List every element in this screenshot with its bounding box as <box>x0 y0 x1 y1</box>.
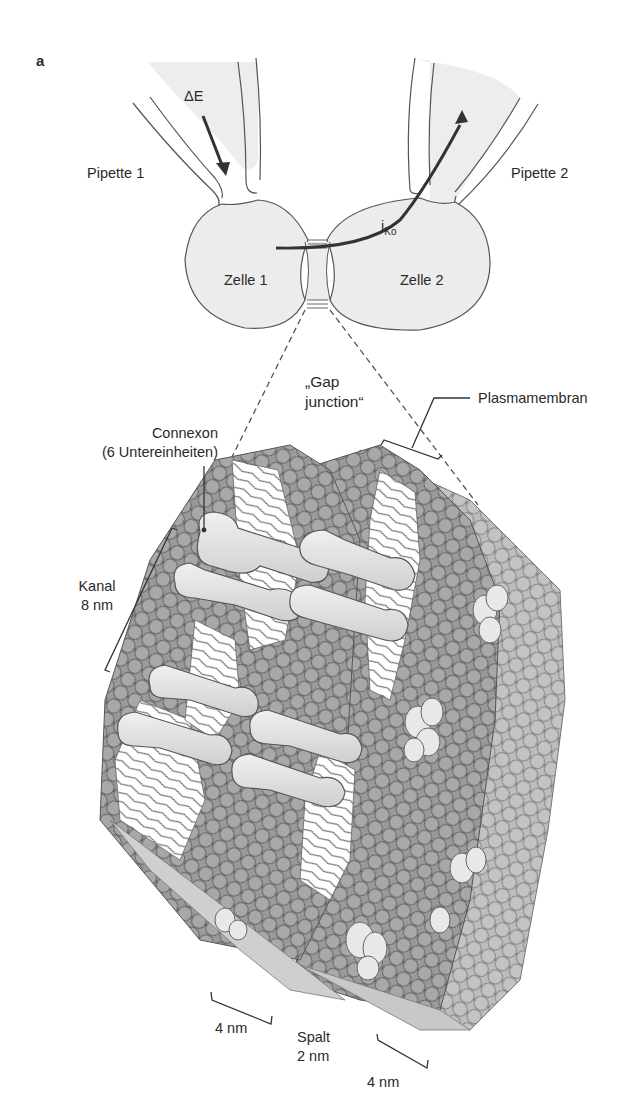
current-subscript: Ko <box>384 226 396 237</box>
cleft-label: Spalt 2 nm <box>297 1028 330 1066</box>
current-label: iKo <box>381 218 396 240</box>
connexon-line-1: Connexon <box>68 424 218 443</box>
plasma-membrane-label: Plasmamembran <box>478 390 588 407</box>
voltage-step-label: ΔE <box>184 88 203 105</box>
cell-1-label: Zelle 1 <box>224 272 268 289</box>
channel-line-1: Kanal <box>72 577 122 596</box>
junction-neck <box>305 240 330 308</box>
connexon-label: Connexon (6 Untereinheiten) <box>68 424 218 462</box>
pipette-1-label: Pipette 1 <box>87 165 144 182</box>
gap-junction-label: „Gap junction“ <box>305 372 364 412</box>
pipette-1 <box>133 58 261 207</box>
channel-line-2: 8 nm <box>72 596 122 615</box>
zoom-line-left <box>232 310 305 457</box>
pipette-2 <box>408 58 538 206</box>
cleft-line-2: 2 nm <box>297 1047 330 1066</box>
membrane-right-thickness-label: 4 nm <box>367 1074 399 1091</box>
cell-2 <box>327 198 490 330</box>
panel-label: a <box>36 52 44 69</box>
cell-1 <box>185 200 308 328</box>
gap-junction-line-1: „Gap <box>305 372 364 392</box>
connexon-line-2: (6 Untereinheiten) <box>68 443 218 462</box>
gap-junction-line-2: junction“ <box>305 392 364 412</box>
membrane-left-thickness-label: 4 nm <box>215 1020 247 1037</box>
pipette-2-label: Pipette 2 <box>511 165 568 182</box>
cleft-line-1: Spalt <box>297 1028 330 1047</box>
channel-label: Kanal 8 nm <box>72 577 122 615</box>
cell-2-label: Zelle 2 <box>400 272 444 289</box>
